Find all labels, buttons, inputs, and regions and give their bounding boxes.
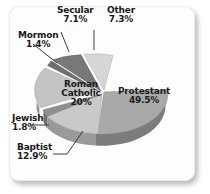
label-roman-catholic-value: 20% xyxy=(55,98,107,107)
label-jewish: Jewish 1.8% xyxy=(12,114,43,132)
label-secular: Secular 7.1% xyxy=(57,6,94,24)
label-mormon-value: 1.4% xyxy=(18,40,58,49)
chart-screenshot: Secular 7.1% Other 7.3% Mormon 1.4% Jewi… xyxy=(0,0,210,194)
label-jewish-value: 1.8% xyxy=(12,123,43,132)
label-baptist: Baptist 12.9% xyxy=(17,143,52,161)
label-mormon: Mormon 1.4% xyxy=(18,31,58,49)
label-other-value: 7.3% xyxy=(107,15,135,24)
label-other: Other 7.3% xyxy=(107,6,135,24)
label-protestant: Protestant 49.5% xyxy=(113,87,175,105)
label-baptist-value: 12.9% xyxy=(17,152,52,161)
leader-line-secular xyxy=(61,32,69,52)
label-secular-value: 7.1% xyxy=(57,15,94,24)
label-protestant-value: 49.5% xyxy=(113,96,175,105)
label-roman-catholic: Roman Catholic 20% xyxy=(55,80,107,108)
